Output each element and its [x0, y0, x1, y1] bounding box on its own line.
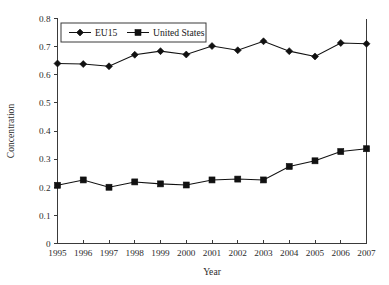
- series-united-states: [55, 146, 370, 191]
- chart-legend[interactable]: EU15United States: [61, 23, 206, 42]
- data-series-layer: [54, 38, 370, 190]
- data-point-square-marker: [209, 177, 215, 183]
- data-point-square-marker: [80, 177, 86, 183]
- y-tick-label: 0.5: [39, 98, 51, 108]
- data-point-diamond-marker: [286, 48, 293, 55]
- data-point-square-marker: [261, 177, 267, 183]
- data-point-diamond-marker: [337, 39, 344, 46]
- y-tick-label: 0.8: [39, 14, 51, 24]
- data-point-square-marker: [286, 163, 292, 169]
- data-point-diamond-marker: [183, 51, 190, 58]
- data-point-diamond-marker: [106, 63, 113, 70]
- legend-label: United States: [153, 27, 205, 38]
- chart-container: 00.10.20.30.40.50.60.70.8 19951996199719…: [0, 0, 389, 285]
- data-point-diamond-marker: [234, 47, 241, 54]
- series-eu15: [54, 38, 370, 70]
- data-point-square-marker: [55, 182, 61, 188]
- x-tick-label: 2002: [229, 248, 248, 258]
- x-tick-label: 2003: [254, 248, 273, 258]
- data-point-square-marker: [106, 184, 112, 190]
- x-axis-ticks: 1995199619971998199920002001200220032004…: [48, 240, 376, 258]
- data-point-diamond-marker: [209, 43, 216, 50]
- data-point-diamond-marker: [157, 48, 164, 55]
- y-tick-label: 0.4: [39, 126, 51, 136]
- y-tick-label: 0.6: [39, 70, 51, 80]
- y-tick-label: 0.3: [39, 154, 51, 164]
- x-tick-label: 2004: [280, 248, 299, 258]
- data-point-square-marker: [158, 181, 164, 187]
- data-point-diamond-marker: [54, 60, 61, 67]
- y-tick-label: 0.7: [39, 42, 51, 52]
- x-tick-label: 1999: [151, 248, 170, 258]
- data-point-square-marker: [338, 149, 344, 155]
- line-chart: 00.10.20.30.40.50.60.70.8 19951996199719…: [0, 0, 389, 285]
- data-point-diamond-marker: [80, 61, 87, 68]
- x-tick-label: 1998: [126, 248, 145, 258]
- legend-label: EU15: [95, 27, 118, 38]
- y-tick-label: 0.2: [39, 183, 51, 193]
- x-tick-label: 2005: [306, 248, 325, 258]
- x-axis-title: Year: [203, 266, 221, 277]
- x-tick-label: 1996: [74, 248, 93, 258]
- data-point-square-marker: [312, 158, 318, 164]
- data-point-square-marker: [364, 146, 370, 152]
- data-point-diamond-marker: [363, 40, 370, 47]
- x-tick-label: 1995: [48, 248, 67, 258]
- x-tick-label: 2001: [203, 248, 222, 258]
- data-point-square-marker: [132, 179, 138, 185]
- x-tick-label: 2000: [177, 248, 196, 258]
- y-axis-ticks: 00.10.20.30.40.50.60.70.8: [39, 14, 57, 249]
- data-point-square-marker: [183, 182, 189, 188]
- x-tick-label: 2007: [357, 248, 376, 258]
- x-tick-label: 1997: [100, 248, 119, 258]
- x-tick-label: 2006: [332, 248, 351, 258]
- y-axis-title: Concentration: [5, 104, 16, 159]
- data-point-square-marker: [235, 176, 241, 182]
- y-tick-label: 0.1: [39, 211, 51, 221]
- data-point-diamond-marker: [312, 53, 319, 60]
- plot-axes: [58, 19, 367, 244]
- data-point-diamond-marker: [131, 51, 138, 58]
- legend-marker-square: [135, 30, 141, 36]
- data-point-diamond-marker: [260, 38, 267, 45]
